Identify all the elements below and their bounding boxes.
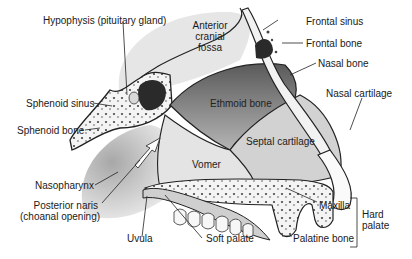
- label-hard-palate-line1: Hard: [362, 209, 389, 220]
- label-hard-palate-line2: palate: [362, 220, 389, 231]
- label-nasopharynx: Nasopharynx: [35, 180, 94, 191]
- label-septal-cartilage: Septal cartilage: [246, 136, 315, 147]
- label-frontal-sinus: Frontal sinus: [306, 16, 363, 27]
- label-soft-palate: Soft palate: [206, 233, 254, 244]
- label-posterior-naris-line1: Posterior naris: [20, 200, 98, 211]
- label-nasal-cartilage: Nasal cartilage: [326, 88, 392, 99]
- label-uvula: Uvula: [127, 233, 153, 244]
- pituitary-gland: [129, 92, 139, 104]
- label-nasal-bone: Nasal bone: [318, 58, 369, 69]
- label-sphenoid-sinus: Sphenoid sinus: [26, 98, 94, 109]
- label-anterior-line1: Anterior: [190, 20, 230, 31]
- label-anterior-line3: fossa: [190, 42, 230, 53]
- label-hypophysis: Hypophysis (pituitary gland): [43, 15, 166, 26]
- label-frontal-bone: Frontal bone: [306, 38, 362, 49]
- label-ethmoid-bone: Ethmoid bone: [210, 98, 272, 109]
- label-hard-palate: Hard palate: [362, 209, 389, 231]
- label-posterior-naris: Posterior naris (choanal opening): [20, 200, 98, 222]
- label-maxilla: Maxilla: [319, 200, 350, 211]
- label-palatine-bone: Palatine bone: [293, 233, 354, 244]
- label-anterior-cranial-fossa: Anterior cranial fossa: [190, 20, 230, 53]
- label-vomer: Vomer: [192, 159, 221, 170]
- label-sphenoid-bone: Sphenoid bone: [17, 125, 84, 136]
- label-anterior-line2: cranial: [190, 31, 230, 42]
- label-posterior-naris-line2: (choanal opening): [20, 211, 98, 222]
